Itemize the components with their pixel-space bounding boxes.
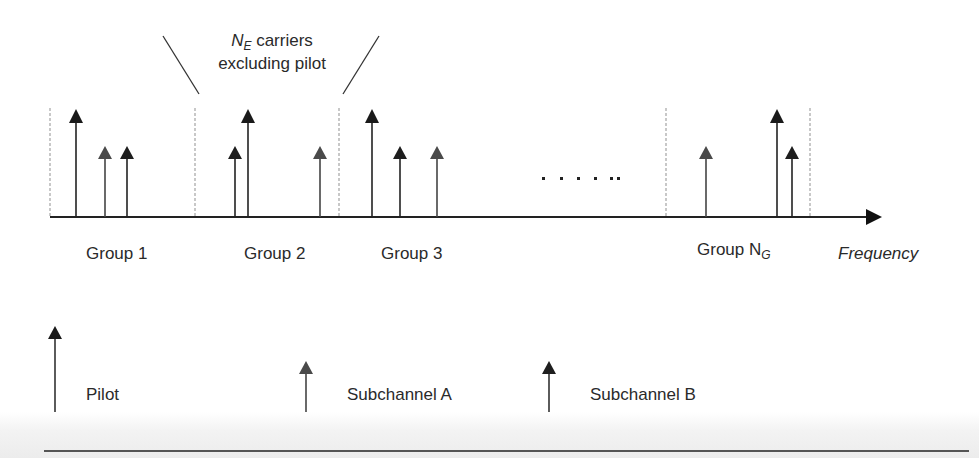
subchannel-b-carrier-arrow-icon (393, 146, 407, 217)
group-ng-carriers (699, 109, 799, 217)
group-separators (50, 108, 810, 217)
group-3-label: Group 3 (381, 244, 442, 264)
subchannel-b-carrier-arrow-icon (228, 146, 242, 217)
group-2-label: Group 2 (244, 244, 305, 264)
pilot-carrier-arrow-icon (365, 109, 379, 217)
subchannel-a-carrier-arrow-icon (699, 146, 713, 217)
subchannel-a-carrier-arrow-icon (98, 146, 112, 217)
frequency-axis (50, 209, 882, 225)
ellipsis-dots-icon (542, 177, 620, 180)
pilot-carrier-arrow-icon (69, 109, 83, 217)
annotation-line-1: NE carriers (200, 30, 344, 53)
legend-subchannel-b-label: Subchannel B (590, 385, 696, 405)
legend-pilot-label: Pilot (86, 385, 119, 405)
group-ng-subscript: G (761, 248, 770, 262)
ne-symbol: N (231, 31, 243, 50)
annotation-carriers-text: carriers (251, 31, 312, 50)
carriers-annotation: NE carriers excluding pilot (200, 30, 344, 75)
ne-subscript: E (243, 39, 251, 53)
bracket-right-line (343, 36, 379, 94)
pilot-carrier-arrow-icon (770, 109, 784, 217)
group-2-carriers (228, 109, 327, 217)
group-ng-label: Group NG (697, 240, 771, 260)
subchannel-a-carrier-arrow-icon (430, 146, 444, 217)
frequency-axis-label: Frequency (838, 244, 918, 264)
group-1-label: Group 1 (86, 244, 147, 264)
group-ng-text: Group N (697, 240, 761, 259)
group-1-carriers (69, 109, 134, 217)
subchannel-a-carrier-arrow-icon (313, 146, 327, 217)
group-3-carriers (365, 109, 444, 217)
page-rule-line (44, 450, 969, 452)
bracket-left-line (163, 36, 199, 94)
subchannel-b-carrier-arrow-icon (120, 146, 134, 217)
annotation-line-2: excluding pilot (200, 53, 344, 75)
subchannel-b-carrier-arrow-icon (785, 146, 799, 217)
pilot-carrier-arrow-icon (241, 109, 255, 217)
legend-subchannel-a-label: Subchannel A (347, 385, 452, 405)
axis-arrowhead-icon (866, 209, 882, 225)
carrier-diagram (0, 0, 979, 458)
